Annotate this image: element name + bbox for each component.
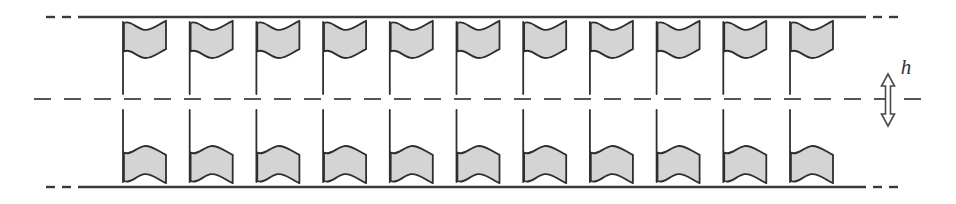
bottom-row-flag-10 [723, 110, 766, 183]
bottom-row-flag-2 [190, 110, 233, 183]
top-row-flag-1 [123, 21, 166, 94]
top-row-flag-10 [723, 21, 766, 94]
flag-row-top [123, 21, 833, 94]
top-row-flag-7 [523, 21, 566, 94]
bottom-row-flag-3 [256, 110, 299, 183]
channel-flags-diagram: h [0, 0, 956, 204]
gap-dimension-annotation: h [882, 55, 912, 126]
bottom-row-flag-4 [323, 110, 366, 183]
top-row-flag-9 [657, 21, 700, 94]
bottom-row-flag-5 [390, 110, 433, 183]
bottom-row-flag-6 [457, 110, 500, 183]
top-row-flag-4 [323, 21, 366, 94]
bottom-row-flag-9 [657, 110, 700, 183]
flag-row-bottom [123, 110, 833, 183]
bottom-row-flag-7 [523, 110, 566, 183]
top-row-flag-11 [790, 21, 833, 94]
bottom-row-flag-1 [123, 110, 166, 183]
top-row-flag-2 [190, 21, 233, 94]
gap-dimension-label: h [901, 55, 912, 79]
figure-canvas: h [0, 0, 956, 204]
top-row-flag-3 [256, 21, 299, 94]
top-row-flag-6 [457, 21, 500, 94]
top-row-flag-8 [590, 21, 633, 94]
top-row-flag-5 [390, 21, 433, 94]
bottom-row-flag-8 [590, 110, 633, 183]
bottom-row-flag-11 [790, 110, 833, 183]
